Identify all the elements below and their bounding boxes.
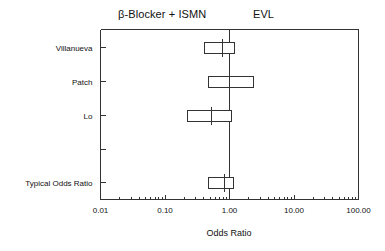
header-label-right: EVL: [253, 8, 274, 20]
plot-canvas: [0, 0, 385, 251]
x-tick-label-0-10: 0.10: [157, 206, 173, 215]
x-axis-title: Odds Ratio: [206, 228, 251, 238]
summary-ci-box: [209, 177, 233, 188]
header-label-left: β-Blocker + ISMN: [118, 8, 206, 20]
study-ci-box: [209, 76, 253, 87]
x-tick-label-1-00: 1.00: [222, 206, 238, 215]
x-tick-label-0-01: 0.01: [93, 206, 109, 215]
x-tick-label-10-00: 10.00: [284, 206, 304, 215]
study-ci-box: [205, 42, 235, 53]
y-axis-label-villanueva: Villanueva: [0, 43, 93, 52]
study-ci-box: [187, 110, 232, 121]
forest-plot-figure: β-Blocker + ISMN EVL VillanuevaPatchLoTy…: [0, 0, 385, 251]
y-axis-label-typical-odds-ratio: Typical Odds Ratio: [0, 178, 93, 187]
y-axis-label-patch: Patch: [0, 77, 93, 86]
x-tick-label-100-00: 100.00: [346, 206, 370, 215]
y-axis-label-lo: Lo: [0, 111, 93, 120]
